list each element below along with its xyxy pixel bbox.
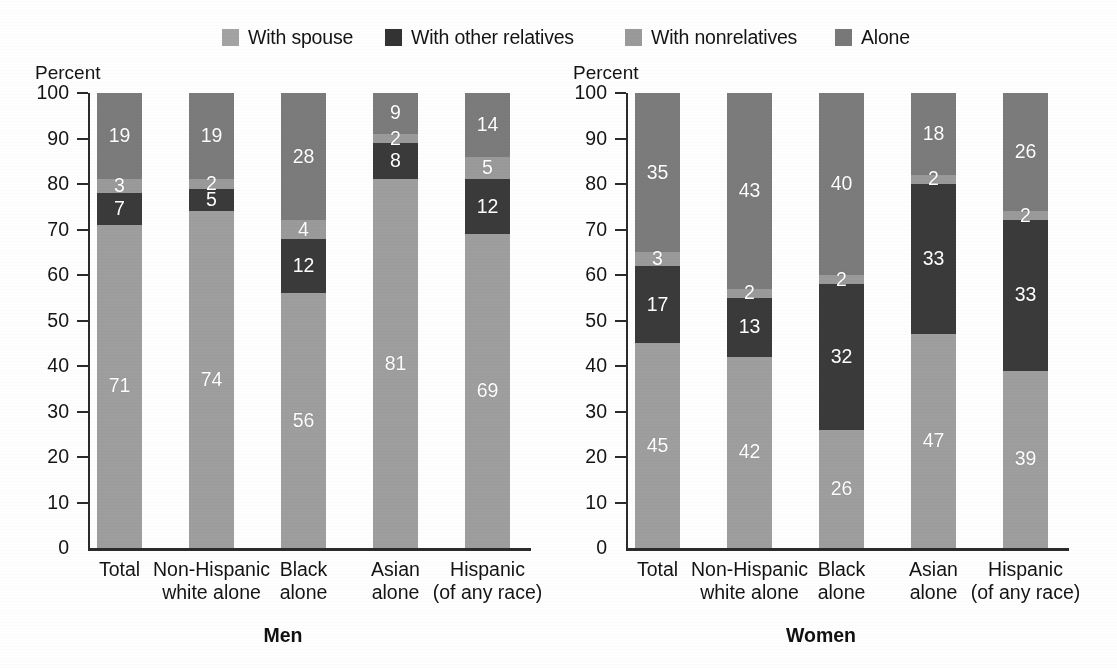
legend-item-with-other-relatives[interactable]: With other relatives <box>385 24 574 50</box>
y-axis-tick-label: 90 <box>565 128 607 148</box>
bar-segment-value: 18 <box>911 124 956 144</box>
y-axis-tick <box>77 456 88 458</box>
bar-segment-value: 32 <box>819 347 864 367</box>
y-axis-tick-label: 60 <box>565 264 607 284</box>
y-axis-tick <box>615 138 626 140</box>
bar-segment-value: 71 <box>97 376 142 396</box>
bar-segment-value: 26 <box>1003 142 1048 162</box>
stacked-bar[interactable]: 717319 <box>97 93 142 548</box>
legend-swatch-icon <box>625 29 642 46</box>
stacked-bar[interactable]: 4213243 <box>727 93 772 548</box>
stacked-bar[interactable]: 745219 <box>189 93 234 548</box>
y-axis-tick-label: 60 <box>27 264 69 284</box>
panel-title: Women <box>721 624 921 647</box>
bar-segment-value: 3 <box>97 176 142 196</box>
bar-segment-value: 2 <box>819 270 864 290</box>
bar-segment-value: 2 <box>1003 206 1048 226</box>
y-axis-tick-label: 0 <box>27 537 69 557</box>
y-axis-tick <box>615 274 626 276</box>
y-axis-tick-label: 80 <box>565 173 607 193</box>
bar-segment-value: 35 <box>635 163 680 183</box>
stacked-bar[interactable]: 5612428 <box>281 93 326 548</box>
legend-label: With spouse <box>248 26 353 49</box>
bar-segment-value: 26 <box>819 479 864 499</box>
y-axis-tick-label: 10 <box>27 492 69 512</box>
y-axis-tick-label: 20 <box>565 446 607 466</box>
bar-segment-value: 17 <box>635 295 680 315</box>
stacked-bar[interactable]: 3933226 <box>1003 93 1048 548</box>
category-label-line: (of any race) <box>931 581 1117 604</box>
x-axis-line <box>88 548 531 551</box>
y-axis-tick <box>615 183 626 185</box>
y-axis-tick <box>77 92 88 94</box>
x-axis-category-label: Hispanic(of any race) <box>393 558 583 603</box>
y-axis-tick-label: 100 <box>565 82 607 102</box>
stacked-bar[interactable]: 4517335 <box>635 93 680 548</box>
y-axis-tick-label: 70 <box>565 219 607 239</box>
y-axis-tick <box>77 274 88 276</box>
y-axis-tick-label: 40 <box>565 355 607 375</box>
y-axis-tick <box>615 411 626 413</box>
stacked-bar[interactable]: 4733218 <box>911 93 956 548</box>
bar-segment-value: 2 <box>373 129 418 149</box>
y-axis-tick-label: 90 <box>27 128 69 148</box>
chart-figure: With spouseWith other relativesWith nonr… <box>0 0 1117 668</box>
bar-segment-value: 12 <box>281 256 326 276</box>
bar-segment-value: 39 <box>1003 449 1048 469</box>
bar-segment-value: 40 <box>819 174 864 194</box>
y-axis-tick-label: 50 <box>565 310 607 330</box>
bar-segment-value: 2 <box>189 174 234 194</box>
panel-title: Men <box>183 624 383 647</box>
y-axis-tick <box>615 320 626 322</box>
y-axis-tick-label: 40 <box>27 355 69 375</box>
y-axis-tick <box>615 92 626 94</box>
bar-segment-value: 2 <box>911 169 956 189</box>
y-axis-tick-label: 30 <box>565 401 607 421</box>
y-axis-tick <box>77 229 88 231</box>
legend-item-with-nonrelatives[interactable]: With nonrelatives <box>625 24 797 50</box>
bar-segment-value: 14 <box>465 115 510 135</box>
bar-segment-value: 12 <box>465 197 510 217</box>
bar-segment-value: 45 <box>635 436 680 456</box>
bar-segment-value: 42 <box>727 442 772 462</box>
legend-item-with-spouse[interactable]: With spouse <box>222 24 353 50</box>
legend-label: With other relatives <box>411 26 574 49</box>
bar-segment-value: 74 <box>189 370 234 390</box>
y-axis-tick-label: 10 <box>565 492 607 512</box>
x-axis-line <box>626 548 1069 551</box>
y-axis-tick <box>77 502 88 504</box>
stacked-bar[interactable]: 6912514 <box>465 93 510 548</box>
bar-segment-value: 4 <box>281 220 326 240</box>
bar-segment-value: 56 <box>281 411 326 431</box>
y-axis-tick <box>615 502 626 504</box>
stacked-bar[interactable]: 2632240 <box>819 93 864 548</box>
y-axis-tick <box>77 320 88 322</box>
chart-legend: With spouseWith other relativesWith nonr… <box>0 24 1117 54</box>
legend-item-alone[interactable]: Alone <box>835 24 910 50</box>
y-axis-tick <box>77 138 88 140</box>
bar-segment-value: 28 <box>281 147 326 167</box>
y-axis-tick-label: 50 <box>27 310 69 330</box>
stacked-bar[interactable]: 81829 <box>373 93 418 548</box>
bar-segment-value: 33 <box>911 249 956 269</box>
bar-segment-value: 19 <box>189 126 234 146</box>
bar-segment-value: 43 <box>727 181 772 201</box>
y-axis-tick <box>615 229 626 231</box>
bar-segment-value: 69 <box>465 381 510 401</box>
bar-segment-value: 5 <box>465 158 510 178</box>
bar-segment-value: 7 <box>97 199 142 219</box>
bar-segment-value: 9 <box>373 103 418 123</box>
bar-segment-value: 3 <box>635 249 680 269</box>
category-label-line: Hispanic <box>393 558 583 581</box>
category-label-line: Hispanic <box>931 558 1117 581</box>
y-axis-tick-label: 100 <box>27 82 69 102</box>
y-axis-line <box>626 93 628 548</box>
y-axis-tick <box>615 456 626 458</box>
bar-segment-value: 2 <box>727 283 772 303</box>
legend-swatch-icon <box>222 29 239 46</box>
bar-segment-value: 19 <box>97 126 142 146</box>
y-axis-tick <box>77 365 88 367</box>
x-axis-category-label: Hispanic(of any race) <box>931 558 1117 603</box>
y-axis-tick-label: 30 <box>27 401 69 421</box>
y-axis-tick <box>77 411 88 413</box>
